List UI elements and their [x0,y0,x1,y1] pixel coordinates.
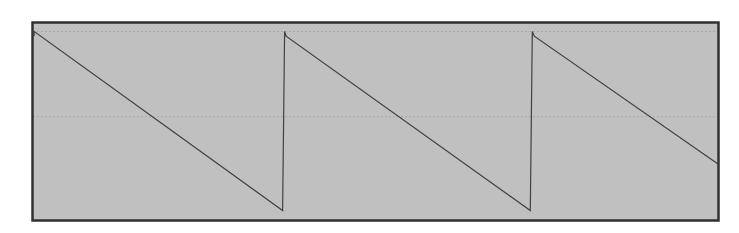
sawtooth-chart [0,0,739,233]
plot-area [33,23,718,220]
